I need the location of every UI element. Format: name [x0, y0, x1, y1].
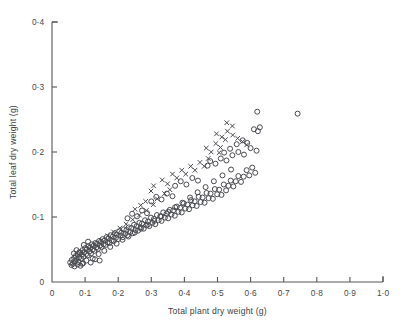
data-point-circle	[229, 167, 234, 172]
data-point-circle	[184, 182, 189, 187]
data-point-cross	[198, 160, 203, 165]
data-point-circle	[178, 179, 183, 184]
x-tick-label: 0·8	[311, 288, 323, 298]
data-point-circle	[228, 146, 233, 151]
data-point-circle	[253, 170, 258, 175]
x-tick-label: 0·5	[212, 288, 224, 298]
data-point-cross	[168, 187, 173, 192]
y-tick-label: 0·1	[32, 212, 44, 222]
data-point-cross	[220, 135, 225, 140]
data-point-cross	[160, 178, 165, 183]
data-point-circle	[126, 234, 131, 239]
data-point-circle	[295, 111, 300, 116]
data-point-circle	[226, 183, 231, 188]
data-point-circle	[211, 179, 216, 184]
data-point-cross	[149, 189, 154, 194]
data-point-circle	[140, 208, 145, 213]
data-point-circle	[248, 146, 253, 151]
scatter-plot-figure: 00·10·20·30·40·50·60·70·80·91·000·10·20·…	[0, 0, 408, 325]
data-point-circle	[195, 178, 200, 183]
x-tick-label: 0·9	[344, 288, 356, 298]
data-point-cross	[143, 199, 148, 204]
data-point-cross	[225, 129, 230, 134]
data-point-cross	[218, 145, 223, 150]
data-point-cross	[217, 150, 222, 155]
y-tick-label: 0	[39, 277, 44, 287]
data-point-cross	[230, 133, 235, 138]
data-point-circle	[255, 109, 260, 114]
data-point-cross	[130, 217, 135, 222]
data-point-cross	[193, 168, 198, 173]
data-points-group	[68, 109, 300, 269]
x-tick-label: 0·3	[145, 288, 157, 298]
data-point-circle	[236, 174, 241, 179]
data-point-circle	[236, 150, 241, 155]
data-point-cross	[151, 184, 156, 189]
data-point-cross	[183, 172, 188, 177]
data-point-circle	[173, 183, 178, 188]
data-point-circle	[233, 179, 238, 184]
y-axis-title: Total leaf dry weight (g)	[8, 105, 18, 199]
data-point-circle	[97, 258, 102, 263]
x-tick-label: 0·6	[245, 288, 257, 298]
data-point-circle	[125, 216, 130, 221]
data-point-cross	[138, 203, 143, 208]
data-point-cross	[174, 176, 179, 181]
data-point-circle	[230, 153, 235, 158]
data-point-cross	[202, 164, 207, 169]
y-tick-label: 0·4	[32, 17, 44, 27]
data-point-circle	[241, 174, 246, 179]
data-point-cross	[230, 124, 235, 129]
data-point-circle	[228, 178, 233, 183]
data-point-cross	[214, 141, 219, 146]
data-point-cross	[133, 207, 138, 212]
data-point-circle	[244, 168, 249, 173]
data-point-cross	[179, 168, 184, 173]
data-point-circle	[218, 156, 223, 161]
data-point-circle	[250, 165, 255, 170]
data-point-cross	[188, 164, 193, 169]
data-point-cross	[165, 182, 170, 187]
data-point-circle	[96, 252, 101, 257]
data-point-circle	[239, 179, 244, 184]
y-tick-label: 0·3	[32, 82, 44, 92]
x-tick-label: 0·4	[178, 288, 190, 298]
x-tick-label: 0·1	[79, 288, 91, 298]
plot-svg: 00·10·20·30·40·50·60·70·80·91·000·10·20·…	[0, 0, 408, 325]
x-tick-label: 1·0	[377, 288, 389, 298]
x-tick-label: 0·2	[112, 288, 124, 298]
data-point-circle	[170, 194, 175, 199]
x-tick-label: 0	[50, 288, 55, 298]
data-point-circle	[241, 152, 246, 157]
x-axis-title: Total plant dry weight (g)	[168, 306, 267, 316]
data-point-circle	[222, 150, 227, 155]
data-point-circle	[102, 248, 107, 253]
data-point-cross	[235, 136, 240, 141]
y-tick-label: 0·2	[32, 147, 44, 157]
data-point-circle	[159, 197, 164, 202]
data-point-cross	[124, 222, 129, 227]
data-point-circle	[254, 148, 259, 153]
data-point-cross	[209, 150, 214, 155]
data-point-cross	[170, 172, 175, 177]
data-point-circle	[231, 184, 236, 189]
data-point-cross	[214, 132, 219, 137]
data-point-circle	[220, 173, 225, 178]
data-point-circle	[203, 185, 208, 190]
data-point-circle	[234, 142, 239, 147]
data-point-circle	[247, 173, 252, 178]
data-point-cross	[223, 137, 228, 142]
data-point-cross	[204, 146, 209, 151]
data-point-circle	[224, 158, 229, 163]
data-point-circle	[130, 211, 135, 216]
data-point-cross	[224, 120, 229, 125]
data-point-circle	[190, 176, 195, 181]
data-point-cross	[111, 230, 116, 235]
data-point-circle	[213, 161, 218, 166]
x-tick-label: 0·7	[278, 288, 290, 298]
